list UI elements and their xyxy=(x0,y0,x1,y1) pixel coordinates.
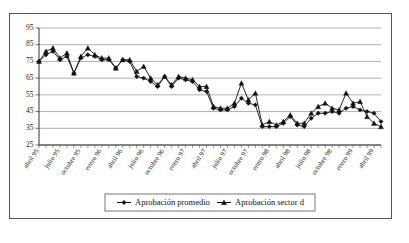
chart-frame: 2535455565758595abril 95julio 95octubre … xyxy=(9,13,392,219)
marker-triangle xyxy=(358,99,363,104)
y-tick-label-55: 55 xyxy=(26,90,34,99)
x-tick-label-13: julio 98 xyxy=(293,147,313,170)
y-tick-label-75: 75 xyxy=(26,56,34,65)
x-tick-label-2: octubre 95 xyxy=(59,147,83,176)
x-tick-label-8: abril 97 xyxy=(189,147,208,170)
marker-triangle xyxy=(288,112,293,117)
y-gridlines: 2535455565758595 xyxy=(26,23,381,149)
series-line-2 xyxy=(39,48,381,127)
x-tick-label-3: enero 96 xyxy=(83,147,104,172)
marker-triangle xyxy=(253,91,258,96)
line-chart: 2535455565758595abril 95julio 95octubre … xyxy=(10,14,393,220)
y-tick-label-35: 35 xyxy=(26,123,34,132)
marker-triangle xyxy=(274,122,279,127)
marker-diamond xyxy=(253,103,257,107)
x-tick-label-9: julio 97 xyxy=(210,147,230,170)
x-tick-label-6: octubre 96 xyxy=(143,147,167,176)
legend: Aprobación promedioAprobación sector d xyxy=(105,194,315,211)
x-tick-label-11: enero 98 xyxy=(250,147,271,172)
marker-triangle xyxy=(141,64,146,69)
x-tick-label-4: abril 96 xyxy=(105,147,124,170)
legend-label-2: Aprobación sector d xyxy=(235,197,305,207)
x-tick-label-14: octubre 98 xyxy=(310,147,334,176)
x-tick-label-12: abril 98 xyxy=(273,147,292,170)
x-tick-label-10: octubre 97 xyxy=(226,147,250,176)
marker-diamond xyxy=(86,53,90,57)
marker-triangle xyxy=(232,101,237,106)
marker-triangle xyxy=(85,46,90,51)
x-tick-label-1: julio 95 xyxy=(42,147,62,170)
marker-triangle xyxy=(365,114,370,119)
y-tick-label-95: 95 xyxy=(26,23,34,32)
y-tick-label-45: 45 xyxy=(26,106,34,115)
x-tick-labels: abril 95julio 95octubre 95enero 96abril … xyxy=(22,147,376,176)
marker-triangle xyxy=(64,51,69,56)
series-2 xyxy=(37,46,384,129)
marker-triangle xyxy=(379,124,384,129)
y-tick-label-25: 25 xyxy=(26,140,34,149)
plot-area: 2535455565758595abril 95julio 95octubre … xyxy=(10,14,393,220)
x-tick-label-15: enero 99 xyxy=(334,147,355,172)
x-tick-label-7: enero 97 xyxy=(167,147,188,172)
marker-triangle xyxy=(323,101,328,106)
marker-triangle xyxy=(260,122,265,127)
x-tick-label-0: abril 95 xyxy=(22,147,41,170)
marker-triangle xyxy=(50,46,55,51)
marker-diamond xyxy=(141,76,145,80)
marker-triangle xyxy=(267,119,272,124)
marker-triangle xyxy=(43,49,48,54)
y-tick-label-65: 65 xyxy=(26,73,34,82)
marker-triangle xyxy=(316,104,321,109)
marker-triangle xyxy=(344,91,349,96)
marker-triangle xyxy=(176,74,181,79)
legend-label-1: Aprobación promedio xyxy=(135,197,210,207)
x-tick-label-5: julio 96 xyxy=(126,147,146,170)
y-tick-label-85: 85 xyxy=(26,39,34,48)
series-line-1 xyxy=(39,51,381,126)
x-tick-label-16: abril 99 xyxy=(357,147,376,170)
marker-triangle xyxy=(239,81,244,86)
